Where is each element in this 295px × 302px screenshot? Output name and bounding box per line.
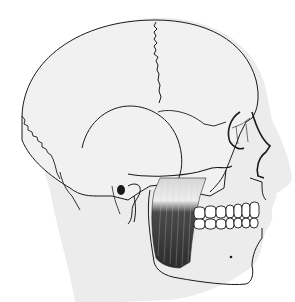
skull-figure <box>0 0 295 302</box>
ear-canal <box>117 185 125 195</box>
mental-foramen <box>230 256 233 259</box>
anatomy-illustration <box>0 0 295 302</box>
